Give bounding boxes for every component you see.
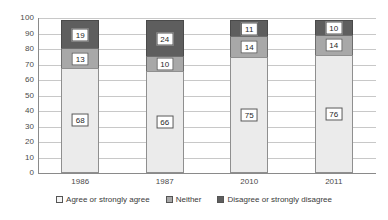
y-tick-label: 10: [0, 154, 34, 162]
bar-segment: 66: [146, 71, 184, 173]
legend-item[interactable]: Neither: [166, 195, 202, 204]
bar-segment: 24: [146, 20, 184, 57]
x-tick-label: 2011: [304, 177, 364, 186]
gridline: [38, 18, 376, 19]
legend-swatch-icon: [166, 196, 173, 203]
data-label: 14: [325, 39, 342, 52]
data-label: 24: [156, 32, 173, 45]
bar-1986: 191368: [61, 21, 99, 173]
stacked-bar-chart: 0102030405060708090100 19136824106611147…: [0, 0, 388, 220]
x-tick-label: 2010: [219, 177, 279, 186]
y-axis-tick-labels: 0102030405060708090100: [0, 18, 34, 173]
legend-swatch-icon: [56, 196, 63, 203]
x-tick-label: 1986: [50, 177, 110, 186]
y-tick-label: 20: [0, 138, 34, 146]
legend-swatch-icon: [217, 196, 224, 203]
data-label: 19: [72, 28, 89, 41]
y-tick-label: 30: [0, 123, 34, 131]
bar-segment: 19: [61, 20, 99, 49]
bar-segment: 75: [230, 57, 268, 173]
legend-item[interactable]: Disagree or strongly disagree: [217, 195, 332, 204]
legend-item[interactable]: Agree or strongly agree: [56, 195, 150, 204]
y-tick-label: 90: [0, 30, 34, 38]
legend-label: Agree or strongly agree: [66, 195, 150, 204]
y-tick-label: 60: [0, 76, 34, 84]
x-tick-label: 1987: [135, 177, 195, 186]
y-tick-label: 40: [0, 107, 34, 115]
bar-segment: 76: [315, 55, 353, 173]
y-axis-line: [38, 18, 39, 173]
bar-segment: 10: [146, 56, 184, 72]
data-label: 11: [241, 22, 257, 35]
y-tick-label: 0: [0, 169, 34, 177]
bar-segment: 11: [230, 20, 268, 37]
y-tick-label: 50: [0, 92, 34, 100]
bar-segment: 68: [61, 68, 99, 173]
y-tick-label: 80: [0, 45, 34, 53]
data-label: 13: [72, 52, 89, 65]
data-label: 10: [325, 21, 342, 34]
bar-2010: 111475: [230, 21, 268, 173]
legend-label: Disagree or strongly disagree: [227, 195, 332, 204]
bar-segment: 14: [230, 36, 268, 58]
bar-2011: 101476: [315, 21, 353, 173]
data-label: 66: [156, 115, 173, 128]
data-label: 10: [156, 57, 173, 70]
data-label: 76: [325, 108, 342, 121]
chart-legend: Agree or strongly agreeNeitherDisagree o…: [0, 195, 388, 204]
y-tick-label: 100: [0, 14, 34, 22]
data-label: 75: [241, 108, 258, 121]
data-label: 14: [241, 40, 258, 53]
legend-label: Neither: [176, 195, 202, 204]
bar-segment: 13: [61, 48, 99, 68]
bar-segment: 14: [315, 35, 353, 57]
data-label: 68: [72, 114, 89, 127]
plot-area: 191368241066111475101476: [38, 18, 376, 173]
bar-segment: 10: [315, 20, 353, 36]
axis-baseline: [38, 173, 376, 174]
y-tick-label: 70: [0, 61, 34, 69]
bar-1987: 241066: [146, 21, 184, 173]
